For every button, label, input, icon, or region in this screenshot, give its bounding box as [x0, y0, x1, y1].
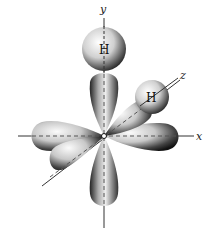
nucleus: [102, 134, 107, 139]
y-axis-label: y: [99, 3, 107, 16]
x-axis-label: x: [196, 130, 203, 143]
orbital-diagram: H H y z x: [0, 0, 212, 235]
hydrogen-label-z: H: [146, 91, 156, 105]
hydrogen-label-top: H: [99, 43, 109, 57]
z-axis-label: z: [179, 69, 186, 82]
